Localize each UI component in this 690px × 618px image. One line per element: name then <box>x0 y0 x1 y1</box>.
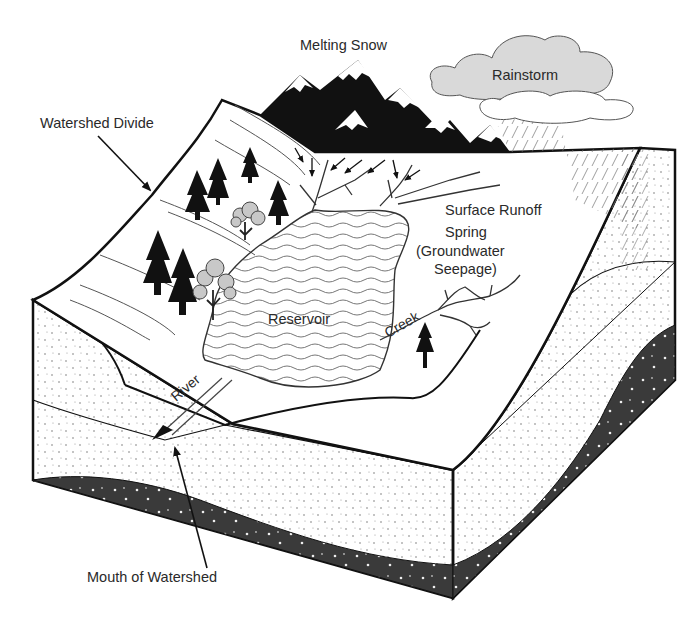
surface-runoff-label: Surface Runoff <box>445 202 542 218</box>
spring-label-line1: Spring <box>445 224 487 240</box>
spring-label-line2: (Groundwater <box>416 243 505 259</box>
rainstorm-label: Rainstorm <box>492 67 558 83</box>
watershed-divide-arrow <box>98 136 150 190</box>
mouth-of-watershed-label: Mouth of Watershed <box>87 569 217 585</box>
reservoir-label: Reservoir <box>268 311 330 327</box>
watershed-diagram: Melting Snow Rainstorm Reservoir <box>0 0 690 618</box>
melting-snow-label: Melting Snow <box>300 37 388 53</box>
spring-label-line3: Seepage) <box>434 261 497 277</box>
watershed-divide-label: Watershed Divide <box>40 115 154 131</box>
